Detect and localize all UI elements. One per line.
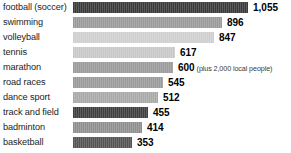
category-label: badminton — [3, 120, 71, 135]
bar-value-label: 455 — [153, 105, 170, 120]
category-label: track and field — [3, 105, 71, 120]
bar-value-label: 847 — [219, 30, 236, 45]
bar-track — [73, 77, 163, 88]
chart-row: badminton414 — [0, 120, 291, 135]
chart-row: dance sport512 — [0, 90, 291, 105]
category-label: swimming — [3, 15, 71, 30]
bar-value-label: 414 — [147, 120, 164, 135]
bar-value-number: 896 — [227, 17, 244, 28]
bar-value-label: 512 — [163, 90, 180, 105]
bar-value-label: 353 — [137, 135, 154, 150]
bar — [73, 137, 132, 148]
category-label: marathon — [3, 60, 71, 75]
bar — [73, 92, 158, 103]
bar-value-number: 414 — [147, 122, 164, 133]
chart-row: football (soccer)1,055 — [0, 0, 291, 15]
bar-value-note: (plus 2,000 local people) — [195, 64, 273, 73]
category-label: basketball — [3, 135, 71, 150]
bar-value-number: 847 — [219, 32, 236, 43]
bar-value-number: 617 — [180, 47, 197, 58]
bar — [73, 107, 148, 118]
bar-value-number: 512 — [163, 92, 180, 103]
bar-value-label: 600 (plus 2,000 local people) — [178, 60, 272, 75]
chart-row: marathon600 (plus 2,000 local people) — [0, 60, 291, 75]
chart-row: tennis617 — [0, 45, 291, 60]
bar — [73, 2, 248, 13]
chart-row: road races545 — [0, 75, 291, 90]
bar-track — [73, 47, 175, 58]
bar — [73, 62, 173, 73]
bar-value-label: 617 — [180, 45, 197, 60]
bar-value-number: 545 — [168, 77, 185, 88]
category-label: road races — [3, 75, 71, 90]
bar — [73, 122, 142, 133]
category-label: volleyball — [3, 30, 71, 45]
bar-track — [73, 17, 222, 28]
bar-track — [73, 107, 148, 118]
bar — [73, 17, 222, 28]
bar-value-label: 896 — [227, 15, 244, 30]
bar-value-number: 600 — [178, 62, 195, 73]
bar-value-number: 353 — [137, 137, 154, 148]
bar-track — [73, 2, 248, 13]
bar-track — [73, 122, 142, 133]
chart-row: track and field455 — [0, 105, 291, 120]
bar-track — [73, 62, 173, 73]
bar-value-label: 1,055 — [253, 0, 278, 15]
category-label: tennis — [3, 45, 71, 60]
chart-row: basketball353 — [0, 135, 291, 150]
bar-value-number: 1,055 — [253, 2, 278, 13]
bar-track — [73, 137, 132, 148]
chart-row: volleyball847 — [0, 30, 291, 45]
bar-chart: football (soccer)1,055swimming896volleyb… — [0, 0, 291, 153]
bar — [73, 32, 214, 43]
bar — [73, 77, 163, 88]
bar-track — [73, 32, 214, 43]
bar-value-label: 545 — [168, 75, 185, 90]
bar — [73, 47, 175, 58]
bar-value-number: 455 — [153, 107, 170, 118]
category-label: football (soccer) — [3, 0, 71, 15]
bar-track — [73, 92, 158, 103]
chart-row: swimming896 — [0, 15, 291, 30]
category-label: dance sport — [3, 90, 71, 105]
